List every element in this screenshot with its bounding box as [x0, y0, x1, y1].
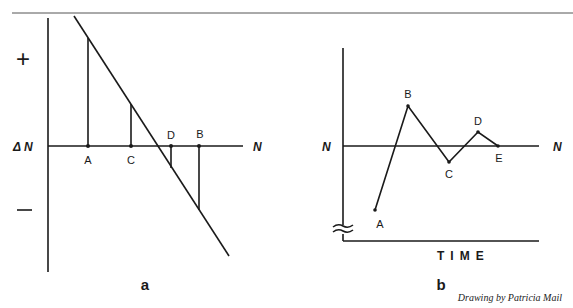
drawing-credit: Drawing by Patricia Mail: [457, 292, 562, 303]
panel-a-dot-D: [169, 144, 173, 148]
axis-break-icon-lower: [333, 230, 353, 233]
panel-b-label-E: E: [495, 152, 502, 164]
panel-a-dot-C: [129, 144, 133, 148]
panel-a-label-B: B: [196, 128, 203, 140]
panel-b-x-axis-label: N: [553, 140, 562, 154]
panel-a-y-axis-label: Δ N: [12, 140, 33, 154]
panel-a-label-A: A: [84, 154, 92, 166]
panel-a-diagonal-line: [74, 16, 229, 256]
panel-b-dot-C: [447, 160, 451, 164]
panel-b-label-A: A: [376, 218, 384, 230]
panel-a-label-D: D: [167, 129, 175, 141]
panel-a-label: a: [141, 276, 150, 293]
panel-b-dot-E: [496, 144, 500, 148]
figure: A C D B + Δ N N a A B: [0, 0, 573, 308]
panel-a-dot-B: [197, 144, 201, 148]
panel-b-label-C: C: [445, 168, 453, 180]
panel-a-plus-sign: +: [16, 45, 30, 72]
panel-b-dot-D: [476, 130, 480, 134]
axis-break-icon: [333, 225, 353, 228]
panel-a-dot-A: [86, 144, 90, 148]
panel-b-y-axis-label: N: [322, 140, 331, 154]
panel-a-x-axis-label: N: [253, 140, 262, 154]
panel-b-time-label: TIME: [437, 249, 490, 263]
panel-b-label-D: D: [474, 115, 482, 127]
panel-b-dot-A: [373, 208, 377, 212]
panel-b: A B C D E N N TIME b: [322, 48, 562, 293]
panel-b-label-B: B: [404, 88, 411, 100]
panel-b-dot-B: [406, 104, 410, 108]
panel-a-label-C: C: [127, 154, 135, 166]
panel-b-label: b: [436, 276, 445, 293]
panel-a: A C D B + Δ N N a: [12, 16, 262, 293]
